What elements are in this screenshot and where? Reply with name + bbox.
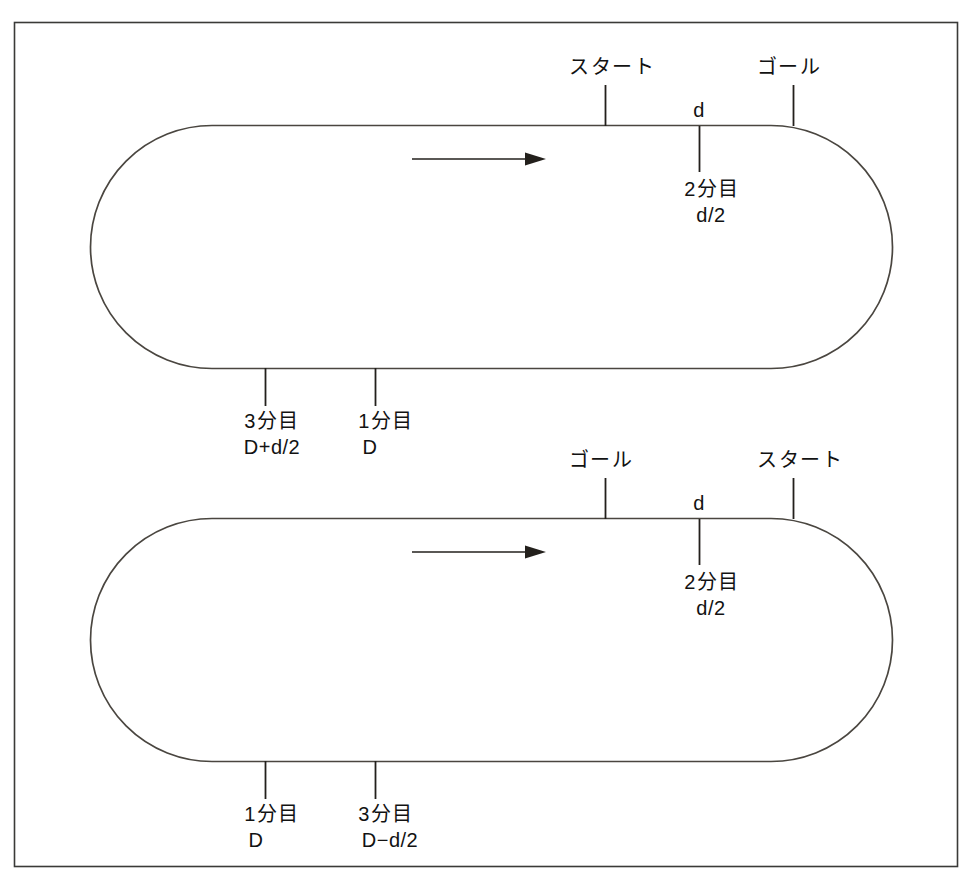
lower-third-split-value: D−d/2 — [362, 829, 418, 853]
upper-start-label: スタート — [569, 56, 655, 80]
lower-start-label: スタート — [757, 449, 843, 473]
upper-second-split-value: d/2 — [696, 204, 725, 228]
running-track-diagram: スタート ゴール d 2分目 d/2 3分目 D+d/2 1分目 D ゴール ス… — [0, 0, 973, 881]
lower-goal-label: ゴール — [569, 449, 634, 473]
lower-first-split-value: D — [249, 829, 264, 853]
upper-third-split-label: 3分目 — [244, 410, 300, 434]
upper-first-split-label: 1分目 — [358, 410, 414, 434]
upper-goal-label: ゴール — [757, 56, 822, 80]
lower-third-split-label: 3分目 — [358, 803, 414, 827]
diagram-canvas — [0, 0, 973, 881]
lower-second-split-value: d/2 — [696, 597, 725, 621]
lower-second-split-label: 2分目 — [684, 571, 740, 595]
lower-first-split-label: 1分目 — [244, 803, 300, 827]
upper-segment-d-label: d — [693, 99, 705, 123]
figure-frame — [15, 23, 958, 867]
upper-second-split-label: 2分目 — [684, 178, 740, 202]
upper-first-split-value: D — [363, 436, 378, 460]
lower-segment-d-label: d — [693, 492, 705, 516]
upper-third-split-value: D+d/2 — [244, 436, 300, 460]
